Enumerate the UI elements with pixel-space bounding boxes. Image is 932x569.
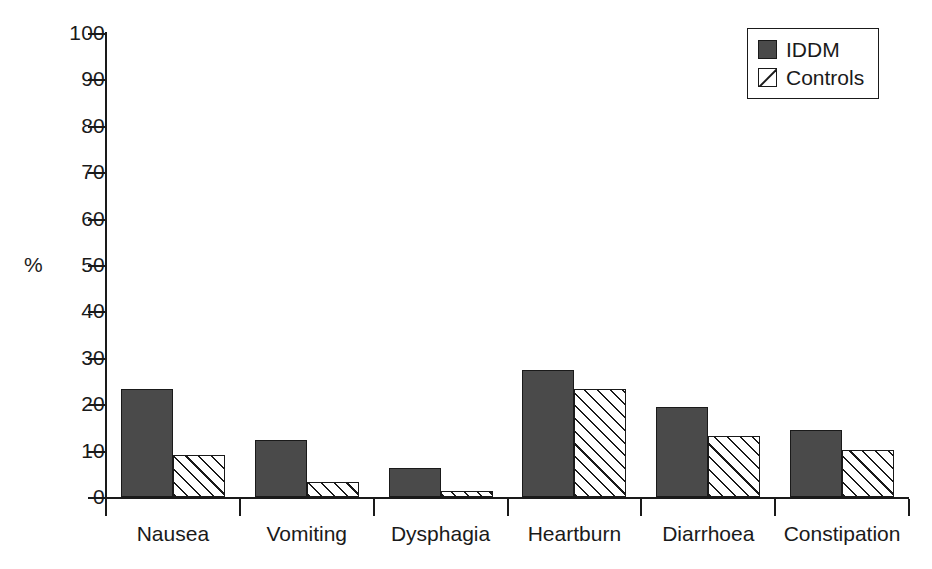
x-tick-mark [105,499,107,516]
bar-group [255,32,359,497]
bar-iddm [255,440,307,497]
bar-controls [173,455,225,497]
bar-controls [842,450,894,497]
legend-label-iddm: IDDM [786,39,840,60]
legend-item-controls: Controls [758,63,864,91]
bar-group [656,32,760,497]
x-axis-label: Constipation [752,522,932,546]
bar-group [389,32,493,497]
x-tick-mark [908,499,910,516]
bar-iddm [522,370,574,497]
bar-iddm [389,468,441,497]
legend-item-iddm: IDDM [758,35,864,63]
bar-iddm [121,389,173,497]
x-tick-mark [507,499,509,516]
bar-group [522,32,626,497]
bar-iddm [656,407,708,497]
bar-group [121,32,225,497]
legend: IDDM Controls [747,28,879,99]
x-tick-mark [373,499,375,516]
legend-swatch-hatched-icon [758,68,777,87]
bar-iddm [790,430,842,497]
bar-controls [307,482,359,497]
x-tick-mark [640,499,642,516]
bar-controls [441,491,493,497]
bar-group [790,32,894,497]
legend-swatch-solid-icon [758,40,777,59]
legend-label-controls: Controls [786,67,864,88]
x-tick-mark [774,499,776,516]
bar-chart: % 0102030405060708090100 NauseaVomitingD… [0,0,932,569]
x-tick-mark [239,499,241,516]
bar-controls [574,389,626,497]
bar-controls [708,436,760,497]
